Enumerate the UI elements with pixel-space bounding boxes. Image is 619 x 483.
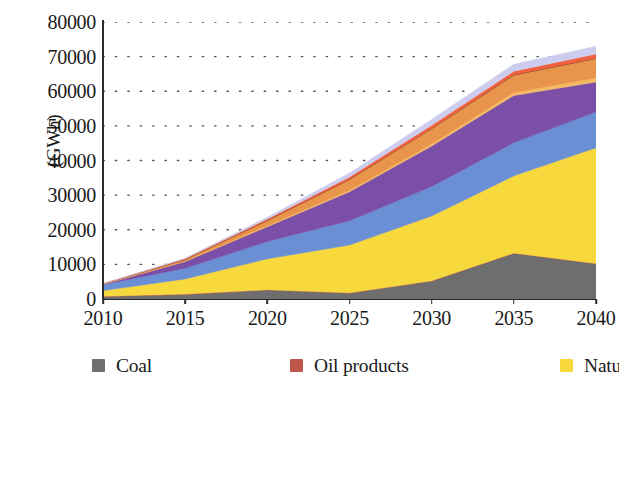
legend-swatch-icon <box>92 359 105 372</box>
y-tick-label: 50000 <box>4 116 96 136</box>
x-axis-tick-labels: 2010201520202025203020352040 <box>103 304 596 334</box>
y-tick-label: 70000 <box>4 47 96 67</box>
y-tick-label: 0 <box>4 289 96 309</box>
y-tick-label: 10000 <box>4 254 96 274</box>
legend-swatch-icon <box>560 359 573 372</box>
x-tick-label: 2035 <box>494 308 533 328</box>
y-tick-label: 20000 <box>4 220 96 240</box>
x-tick-mark <box>102 299 104 304</box>
y-tick-label: 80000 <box>4 12 96 32</box>
legend-item[interactable]: Natural gas <box>560 352 619 379</box>
legend-swatch-icon <box>290 359 303 372</box>
legend-label: Oil products <box>314 356 409 376</box>
x-tick-mark <box>349 299 351 304</box>
y-tick-label: 60000 <box>4 81 96 101</box>
legend-label: Natural gas <box>584 356 619 376</box>
x-tick-mark <box>267 299 269 304</box>
x-tick-mark <box>431 299 433 304</box>
plot-svg <box>103 22 596 299</box>
x-tick-label: 2030 <box>412 308 451 328</box>
chart-legend: CoalOil productsNatural gasHydroWindBiom… <box>92 352 612 379</box>
stacked-area-chart-figure: (GWh) 0100002000030000400005000060000700… <box>0 0 619 483</box>
x-tick-label: 2015 <box>166 308 205 328</box>
legend-item[interactable]: Oil products <box>290 352 560 379</box>
legend-label: Coal <box>116 356 152 376</box>
legend-item[interactable]: Coal <box>92 352 290 379</box>
y-axis-tick-labels: 0100002000030000400005000060000700008000… <box>0 0 96 320</box>
x-tick-label: 2020 <box>248 308 287 328</box>
plot-area <box>103 22 596 299</box>
x-tick-label: 2010 <box>84 308 123 328</box>
y-tick-label: 30000 <box>4 185 96 205</box>
x-tick-mark <box>513 299 515 304</box>
x-tick-label: 2025 <box>330 308 369 328</box>
y-tick-label: 40000 <box>4 151 96 171</box>
x-tick-label: 2040 <box>577 308 616 328</box>
x-tick-mark <box>184 299 186 304</box>
x-tick-mark <box>595 299 597 304</box>
y-axis-line <box>102 20 104 300</box>
